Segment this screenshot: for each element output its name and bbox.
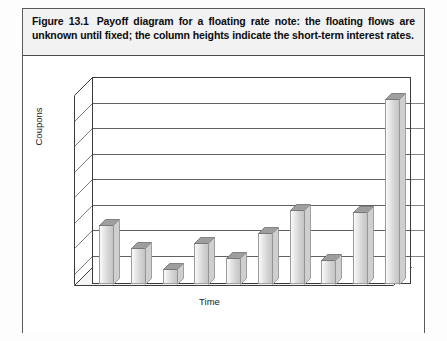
bar-3d-shading [194, 237, 217, 286]
bar-3d-shading [163, 263, 186, 286]
right-edge-ticks [410, 77, 430, 284]
figure-caption-text: Figure 13.1Payoff diagram for a floating… [32, 15, 415, 42]
bar-3d-shading [385, 93, 408, 286]
x-axis-title: Time [23, 296, 424, 307]
bar-3d-shading [353, 206, 376, 286]
bar-3d-shading [131, 242, 154, 286]
figure-root: Figure 13.1Payoff diagram for a floating… [0, 0, 447, 341]
bar-column [385, 99, 400, 284]
bar-column [226, 258, 241, 284]
bar-column [163, 269, 178, 284]
bar-column [353, 212, 368, 284]
bar-3d-shading [290, 204, 313, 286]
figure-caption-box: Figure 13.1Payoff diagram for a floating… [23, 9, 424, 56]
plot-side-wall [74, 77, 93, 284]
bar-column [99, 225, 114, 284]
bar-column [131, 248, 146, 284]
bar-column [194, 243, 209, 284]
plot-area [74, 77, 411, 284]
y-axis-title: Coupons [33, 132, 44, 146]
bar-3d-shading [226, 252, 249, 286]
figure-caption: Payoff diagram for a floating rate note:… [32, 15, 415, 41]
bar-column [321, 260, 336, 284]
bar-3d-shading [321, 254, 344, 286]
bar-3d-shading [99, 219, 122, 286]
bar-3d-shading [258, 227, 281, 286]
bar-series [93, 78, 410, 284]
bar-column [290, 210, 305, 284]
figure-frame: Figure 13.1Payoff diagram for a floating… [22, 8, 425, 333]
chart-panel: Coupons [23, 56, 424, 333]
side-wall-ticks [74, 77, 94, 284]
figure-number: Figure 13.1 [32, 15, 89, 27]
bar-column [258, 233, 273, 284]
